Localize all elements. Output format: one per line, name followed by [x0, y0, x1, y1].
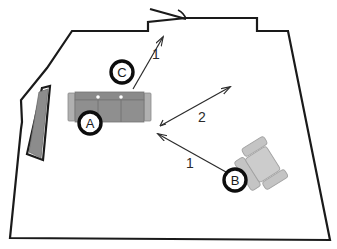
door-swing-icon [150, 9, 186, 19]
marker-c-label: C [117, 65, 126, 80]
sofa-back-dot-2 [119, 95, 123, 99]
sofa-backrest [75, 92, 144, 100]
room-outline [10, 18, 330, 240]
marker-c[interactable]: C [111, 61, 133, 83]
dimension-2-middle-label: 2 [198, 109, 206, 125]
floorplan-canvas: 1 2 1 A B C [0, 0, 337, 249]
sofa-back-dot-1 [96, 95, 100, 99]
sofa-armrest-right [144, 93, 151, 121]
marker-a[interactable]: A [79, 112, 101, 134]
dimension-1-top-label: 1 [152, 46, 160, 62]
marker-b-label: B [231, 173, 240, 188]
floorplan-root: 1 2 1 A B C [0, 0, 337, 249]
dimension-1-bottom-label: 1 [186, 155, 194, 171]
door-leaf [150, 9, 186, 19]
marker-b[interactable]: B [224, 169, 246, 191]
marker-a-label: A [86, 116, 95, 131]
sofa-armrest-left [68, 93, 75, 121]
